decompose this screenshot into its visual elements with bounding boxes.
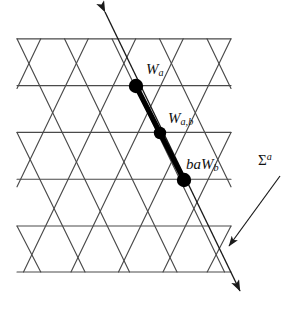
label-bawb-prefix: ba: [186, 156, 201, 172]
vertex-dot-wa: [129, 79, 143, 93]
lattice-diagonal: [17, 132, 85, 272]
sigma-glyph: Σ: [258, 152, 267, 168]
label-wab-base: W: [168, 110, 181, 126]
label-wa-sub: a: [159, 67, 164, 78]
vertex-dot-wab: [154, 127, 166, 139]
wall-line-sigma-a: [105, 12, 240, 291]
lattice-diagonal: [24, 39, 136, 272]
lattice-diagonal: [71, 39, 183, 272]
label-bawb-sub: b: [214, 162, 219, 173]
vertex-dot-bawb: [177, 173, 191, 187]
lattice-diagonal: [17, 226, 41, 272]
label-vertex-bottom: baWb: [186, 157, 219, 173]
label-wall-sigma: Σa: [258, 152, 272, 168]
sigma-pointer-arrow: [229, 176, 280, 246]
label-wa-base: W: [146, 61, 159, 77]
label-vertex-middle: Wa,b: [168, 111, 193, 127]
label-sigma-sup: a: [267, 151, 272, 162]
label-vertex-top: Wa: [146, 62, 164, 78]
label-wab-sub: a,b: [181, 116, 194, 127]
lattice-figure: Wa Wa,b baWb Σa: [0, 0, 303, 310]
label-bawb-base: W: [201, 156, 214, 172]
lattice-diagonal: [17, 39, 130, 272]
